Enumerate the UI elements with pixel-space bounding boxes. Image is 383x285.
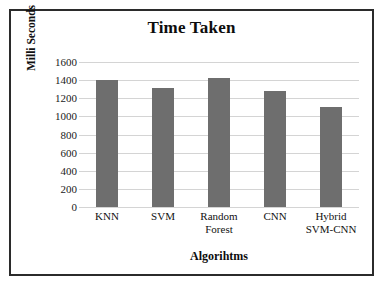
- chart-title: Time Taken: [11, 18, 372, 38]
- y-tick-label: 400: [31, 165, 77, 176]
- bar: [208, 78, 230, 207]
- x-category-label-line: KNN: [79, 210, 135, 223]
- gridline: [79, 207, 359, 208]
- bar: [152, 88, 174, 207]
- y-tick-label: 1400: [31, 75, 77, 86]
- x-category-label: SVM: [135, 210, 191, 223]
- bar: [264, 91, 286, 207]
- bar-slot: [247, 62, 303, 207]
- x-category-label-line: Hybrid: [303, 210, 359, 223]
- x-category-label: KNN: [79, 210, 135, 223]
- bar: [320, 107, 342, 207]
- y-tick-label: 800: [31, 129, 77, 140]
- chart-frame-border: Time Taken Milli Seconds 160014001200100…: [9, 9, 374, 276]
- x-category-label-line: Forest: [191, 223, 247, 236]
- y-tick-label: 0: [31, 202, 77, 213]
- bar-series: [79, 62, 359, 207]
- y-tick-label: 1200: [31, 93, 77, 104]
- y-tick-label: 1000: [31, 111, 77, 122]
- x-category-label: RandomForest: [191, 210, 247, 236]
- y-tick-label: 200: [31, 183, 77, 194]
- x-category-label-line: CNN: [247, 210, 303, 223]
- x-axis-category-labels: KNNSVMRandomForestCNNHybridSVM-CNN: [79, 210, 359, 248]
- bar-slot: [191, 62, 247, 207]
- y-tick-label: 600: [31, 147, 77, 158]
- bar-slot: [135, 62, 191, 207]
- chart-canvas: Time Taken Milli Seconds 160014001200100…: [11, 11, 372, 274]
- plot-area: [79, 62, 359, 207]
- x-category-label-line: Random: [191, 210, 247, 223]
- x-category-label: CNN: [247, 210, 303, 223]
- x-category-label: HybridSVM-CNN: [303, 210, 359, 236]
- x-axis-title: Algorihtms: [79, 249, 359, 264]
- x-category-label-line: SVM: [135, 210, 191, 223]
- x-category-label-line: SVM-CNN: [303, 223, 359, 236]
- bar: [96, 80, 118, 207]
- bar-slot: [79, 62, 135, 207]
- bar-slot: [303, 62, 359, 207]
- y-tick-label: 1600: [31, 57, 77, 68]
- y-axis-tick-labels: 16001400120010008006004002000: [31, 62, 77, 207]
- chart-screenshot: Time Taken Milli Seconds 160014001200100…: [0, 0, 383, 285]
